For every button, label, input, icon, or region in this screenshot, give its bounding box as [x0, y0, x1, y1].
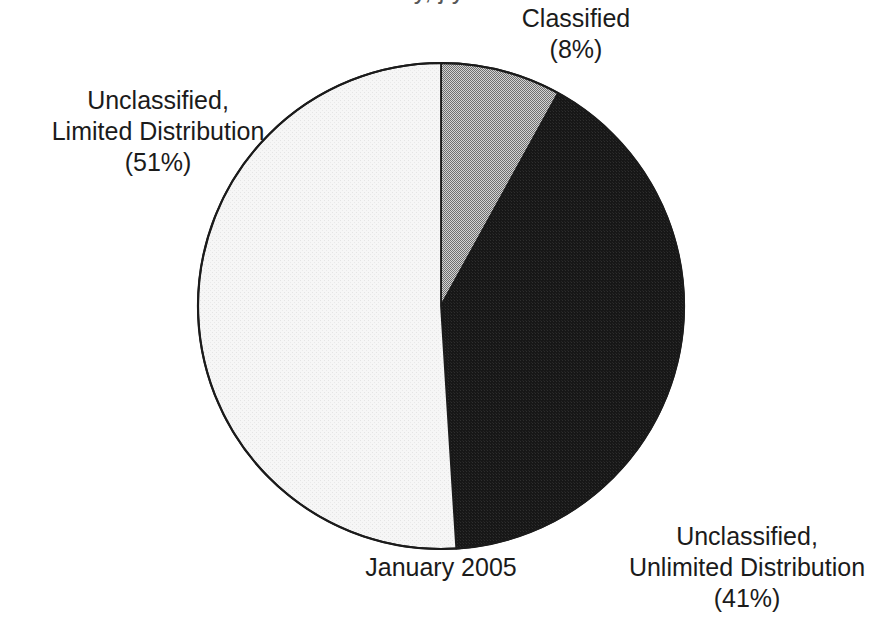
- pie-label-limited-line1: Unclassified,: [8, 85, 308, 116]
- pie-label-classified-name: Classified: [466, 3, 686, 34]
- pie-chart-figure: y, j y: [0, 0, 878, 635]
- chart-date-caption: January 2005: [311, 552, 571, 583]
- pie-label-unlimited-percent: (41%): [616, 583, 878, 614]
- pie-label-unlimited-line2: Unlimited Distribution: [616, 552, 878, 583]
- pie-label-unclassified-unlimited: Unclassified, Unlimited Distribution (41…: [616, 521, 878, 614]
- pie-label-unlimited-line1: Unclassified,: [616, 521, 878, 552]
- pie-label-limited-percent: (51%): [8, 147, 308, 178]
- pie-label-classified-percent: (8%): [466, 34, 686, 65]
- pie-label-unclassified-limited: Unclassified, Limited Distribution (51%): [8, 85, 308, 178]
- pie-label-limited-line2: Limited Distribution: [8, 116, 308, 147]
- pie-label-classified: Classified (8%): [466, 3, 686, 65]
